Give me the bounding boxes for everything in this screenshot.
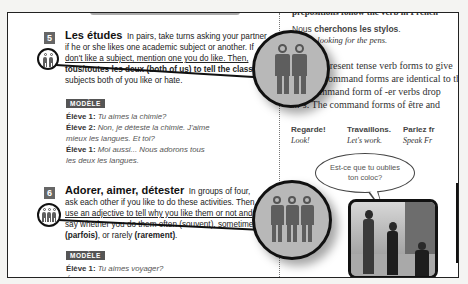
cut-off-heading: prepositions follow the verb in French <box>292 12 438 17</box>
exercise-5-dialog: Élève 1: Tu aimes la chimie? Élève 2: No… <box>66 111 210 166</box>
group-icon-circle <box>37 203 61 227</box>
exercise-5-instructions: Les études In pairs, take turns asking y… <box>65 30 267 86</box>
textbook-spread: 5 Les études In pairs, take turns asking… <box>7 12 459 278</box>
command-example: Travaillons.Let's work. <box>347 124 403 147</box>
exercise-6-dialog: Élève 1: Tu aimes voyager? Élève 2: Oui.… <box>66 263 225 278</box>
exercise-number-badge: 6 <box>44 187 55 199</box>
modele-label: MODÈLE <box>66 99 105 108</box>
command-example: Parlez frSpeak Fr <box>403 124 459 147</box>
pair-icon-circle <box>37 48 59 70</box>
modele-label: MODÈLE <box>66 251 105 260</box>
adjacent-image-edge <box>456 183 459 263</box>
group-icon-magnified <box>252 180 332 260</box>
exercise-number-badge: 5 <box>44 32 55 44</box>
exercise-5-title: Les études <box>65 29 122 41</box>
pair-icon <box>255 44 327 98</box>
group-icon <box>39 208 59 226</box>
command-examples: Regarde!Look! Travaillons.Let's work. Pa… <box>291 124 459 147</box>
exercise-6-instructions: Adorer, aimer, détester In groups of fou… <box>65 185 258 241</box>
command-example: Regarde!Look! <box>291 124 347 147</box>
left-page: 5 Les études In pairs, take turns asking… <box>8 13 278 278</box>
group-icon <box>255 196 329 246</box>
exercise-6-title: Adorer, aimer, détester <box>65 184 184 196</box>
pair-icon <box>39 53 57 71</box>
student-figure <box>387 231 398 275</box>
example-french: Nous cherchons les stylos. <box>292 24 401 34</box>
student-figure <box>415 250 429 276</box>
student-photo <box>348 199 438 278</box>
student-figure <box>363 219 374 274</box>
speech-bubble: Est-ce que tu oublies ton coloc? <box>315 153 415 193</box>
pair-icon-magnified <box>252 30 330 108</box>
